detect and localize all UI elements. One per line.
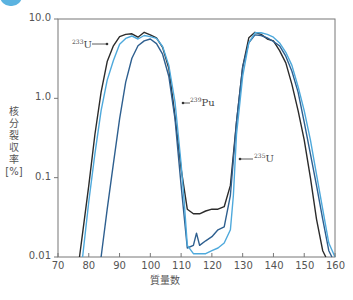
x-tick-label: 150: [295, 260, 313, 271]
x-tick-label: 100: [141, 260, 159, 271]
x-tick-label: 120: [203, 260, 221, 271]
x-tick-label: 130: [234, 260, 252, 271]
x-tick-label: 80: [80, 260, 98, 271]
annotation-pointer-dot: [182, 102, 185, 105]
y-label-char: 分: [2, 118, 26, 130]
y-tick-label: 0.1: [0, 171, 51, 182]
x-tick-label: 90: [111, 260, 129, 271]
x-tick-label: 160: [326, 260, 344, 271]
y-tick-label: 0.01: [0, 250, 51, 261]
series-line-239Pu: [101, 35, 332, 257]
x-axis-label: 質量数: [150, 272, 180, 287]
series-line-235U: [83, 33, 335, 257]
y-label-char: 率: [2, 154, 26, 166]
y-label-char: 収: [2, 142, 26, 154]
y-tick-label: 1.0: [0, 91, 51, 102]
annotation-pointer-dot: [239, 158, 242, 161]
x-tick-label: 140: [264, 260, 282, 271]
annotation-pointer-dot: [106, 43, 109, 46]
annotation-235U: 235U: [254, 152, 274, 164]
x-tick-label: 70: [49, 260, 67, 271]
annotation-239Pu: 239Pu: [190, 96, 215, 108]
y-label-char: 核: [2, 106, 26, 118]
plot-frame: [58, 19, 335, 257]
x-tick-label: 110: [172, 260, 190, 271]
y-tick-label: 10.0: [0, 12, 51, 23]
y-axis-label: 核分裂収率[%]: [2, 106, 26, 178]
fission-yield-chart: [0, 0, 353, 300]
y-label-char: 裂: [2, 130, 26, 142]
annotation-233U: 233U: [72, 38, 92, 50]
